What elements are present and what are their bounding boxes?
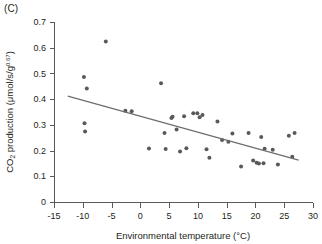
x-tick-label: 5 — [167, 211, 172, 221]
data-point — [83, 121, 87, 125]
data-point — [184, 146, 188, 150]
data-point — [85, 87, 89, 91]
y-tick-label: 0.1 — [33, 171, 46, 181]
y-title-co: CO — [4, 159, 15, 173]
x-axis-ticks: -15-10-5051015202530 — [47, 203, 318, 222]
data-point — [163, 131, 167, 135]
data-point — [195, 111, 199, 115]
data-point — [82, 75, 86, 79]
data-point — [159, 81, 163, 85]
y-tick-label: 0.5 — [33, 69, 46, 79]
x-tick-label: 30 — [308, 211, 318, 221]
data-point — [171, 115, 175, 119]
axes — [54, 22, 313, 203]
scatter-plot: 00.10.20.30.40.50.60.7 -15-10-5051015202… — [0, 0, 322, 244]
y-title-superscript: 0.67 — [5, 54, 11, 66]
data-points — [82, 40, 297, 169]
x-tick-label: 20 — [250, 211, 260, 221]
data-point — [164, 147, 168, 151]
data-point — [175, 127, 179, 131]
fit-line — [68, 96, 299, 160]
data-point — [271, 148, 275, 152]
x-tick-label: -10 — [76, 211, 89, 221]
x-axis-title: Environmental temperature (°C) — [116, 230, 250, 241]
x-tick-label: -5 — [108, 211, 116, 221]
regression-line — [68, 96, 299, 160]
y-tick-label: 0.7 — [33, 17, 46, 27]
y-axis-title: CO2 production (μmol/s/g0.67) — [4, 51, 16, 173]
y-axis-ticks: 00.10.20.30.40.50.60.7 — [33, 17, 54, 207]
data-point — [257, 161, 261, 165]
data-point — [178, 150, 182, 154]
data-point — [130, 109, 134, 113]
data-point — [276, 162, 280, 166]
data-point — [251, 159, 255, 163]
y-tick-label: 0.2 — [33, 146, 46, 156]
y-tick-label: 0 — [41, 197, 46, 207]
data-point — [83, 130, 87, 134]
data-point — [215, 120, 219, 124]
y-title-close: ) — [4, 51, 15, 54]
data-point — [182, 114, 186, 118]
data-point — [104, 40, 108, 44]
y-title-body: production (μmol/s/g — [4, 66, 15, 155]
data-point — [247, 131, 251, 135]
data-point — [259, 135, 263, 139]
x-tick-label: -15 — [47, 211, 60, 221]
data-point — [293, 131, 297, 135]
x-tick-label: 10 — [193, 211, 203, 221]
y-tick-label: 0.4 — [33, 94, 46, 104]
data-point — [205, 147, 209, 151]
y-axis-title-text: CO2 production (μmol/s/g0.67) — [4, 51, 16, 173]
data-point — [191, 111, 195, 115]
x-tick-label: 15 — [222, 211, 232, 221]
data-point — [230, 132, 234, 136]
data-point — [207, 156, 211, 160]
data-point — [262, 161, 266, 165]
data-point — [200, 113, 204, 117]
x-tick-label: 25 — [279, 211, 289, 221]
data-point — [287, 134, 291, 138]
chart-panel: (C) 00.10.20.30.40.50.60.7 -15-10-505101… — [0, 0, 322, 244]
y-tick-label: 0.6 — [33, 43, 46, 53]
data-point — [239, 165, 243, 169]
x-tick-label: 0 — [138, 211, 143, 221]
y-tick-label: 0.3 — [33, 120, 46, 130]
data-point — [147, 147, 151, 151]
